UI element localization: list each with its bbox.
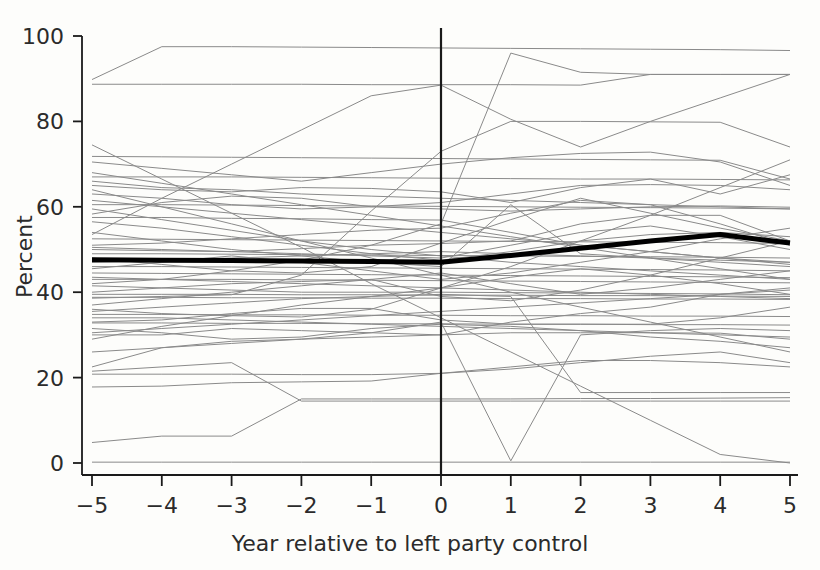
line-chart-plot bbox=[0, 0, 820, 570]
y-tick-label: 80 bbox=[0, 109, 64, 134]
chart-figure: Percent Year relative to left party cont… bbox=[0, 0, 820, 570]
y-tick-label: 40 bbox=[0, 280, 64, 305]
x-tick-label: 3 bbox=[643, 493, 657, 518]
x-tick-label: 0 bbox=[434, 493, 448, 518]
y-tick-label: 0 bbox=[0, 451, 64, 476]
x-tick-label: 5 bbox=[783, 493, 797, 518]
x-tick-label: −2 bbox=[285, 493, 317, 518]
x-tick-label: 1 bbox=[504, 493, 518, 518]
x-tick-label: −1 bbox=[355, 493, 387, 518]
y-tick-label: 100 bbox=[0, 24, 64, 49]
x-tick-label: −4 bbox=[146, 493, 178, 518]
y-tick-label: 60 bbox=[0, 194, 64, 219]
x-tick-label: 2 bbox=[574, 493, 588, 518]
x-tick-label: −5 bbox=[76, 493, 108, 518]
x-axis-label: Year relative to left party control bbox=[0, 531, 820, 556]
x-tick-label: −3 bbox=[215, 493, 247, 518]
x-tick-label: 4 bbox=[713, 493, 727, 518]
y-tick-label: 20 bbox=[0, 365, 64, 390]
